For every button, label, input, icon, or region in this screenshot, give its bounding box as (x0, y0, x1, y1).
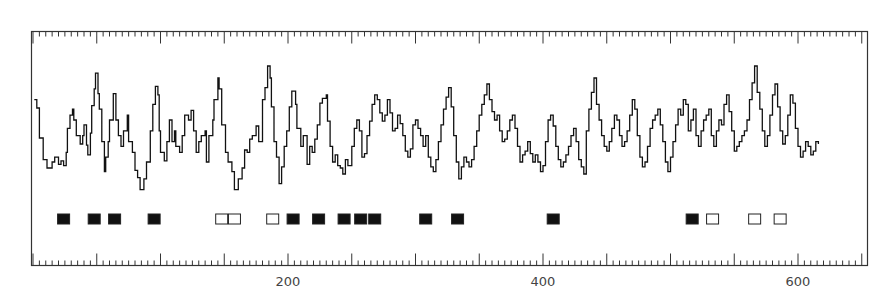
plot-frame (32, 32, 868, 266)
filled-marker (686, 214, 698, 224)
filled-marker (452, 214, 464, 224)
open-marker (749, 214, 761, 224)
open-marker (774, 214, 786, 224)
filled-marker (369, 214, 381, 224)
x-axis-tick-labels: 200400600 (276, 274, 811, 289)
open-marker (228, 214, 240, 224)
bottom-axis-ticks (33, 254, 862, 266)
filled-marker (355, 214, 367, 224)
filled-marker (88, 214, 100, 224)
feature-markers (58, 214, 787, 224)
x-tick-label: 600 (786, 274, 811, 289)
filled-marker (547, 214, 559, 224)
filled-marker (420, 214, 432, 224)
x-tick-label: 200 (276, 274, 301, 289)
profile-trace-line (34, 66, 818, 190)
open-marker (216, 214, 228, 224)
profile-chart: 200400600 (0, 0, 890, 303)
filled-marker (287, 214, 299, 224)
open-marker (707, 214, 719, 224)
filled-marker (338, 214, 350, 224)
x-tick-label: 400 (531, 274, 556, 289)
top-axis-ticks (33, 32, 862, 44)
filled-marker (58, 214, 70, 224)
filled-marker (109, 214, 121, 224)
filled-marker (148, 214, 160, 224)
filled-marker (313, 214, 325, 224)
open-marker (267, 214, 279, 224)
